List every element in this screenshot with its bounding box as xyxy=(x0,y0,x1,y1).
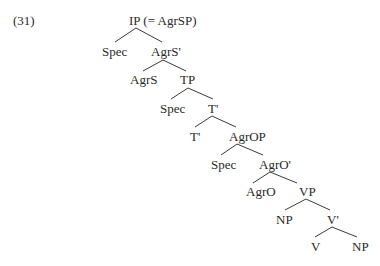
tree-node-agrop: AgrOP xyxy=(229,130,266,144)
tree-edge-agrs-bar-to-agrs xyxy=(143,60,163,71)
tree-node-np2: NP xyxy=(352,240,369,254)
tree-node-spec2: Spec xyxy=(160,102,185,116)
tree-edge-vp-to-v-bar xyxy=(306,199,330,210)
tree-edge-v-bar-to-np2 xyxy=(332,227,357,237)
tree-edge-vp-to-np1 xyxy=(285,199,306,210)
tree-edge-ip-to-agrs-bar xyxy=(136,28,162,42)
tree-node-t: T' xyxy=(190,130,200,144)
tree-edge-v-bar-to-v xyxy=(315,227,332,237)
tree-edge-ip-to-spec1 xyxy=(115,28,136,42)
tree-edge-agrop-to-agro-bar xyxy=(237,144,263,155)
tree-node-agrs-bar: AgrS' xyxy=(151,45,181,59)
tree-node-agro-bar: AgrO' xyxy=(259,158,291,172)
tree-node-spec1: Spec xyxy=(102,45,127,59)
tree-edge-agrop-to-spec3 xyxy=(221,144,237,155)
tree-node-tp: TP xyxy=(180,73,195,87)
tree-edge-agro-bar-to-agro xyxy=(253,172,270,183)
tree-edge-tp-to-t-bar xyxy=(188,88,213,99)
tree-edge-agro-bar-to-vp xyxy=(270,172,297,183)
tree-node-agro: AgrO xyxy=(246,185,276,199)
tree-edge-t-bar-to-t xyxy=(195,116,212,127)
tree-node-t-bar: T' xyxy=(208,102,218,116)
tree-node-v-bar: V' xyxy=(327,213,339,227)
tree-edge-t-bar-to-agrop xyxy=(212,116,236,127)
tree-edge-agrs-bar-to-tp xyxy=(163,60,186,71)
tree-node-agrs: AgrS xyxy=(130,73,157,87)
tree-node-np1: NP xyxy=(276,213,293,227)
tree-node-v: V xyxy=(311,240,320,254)
tree-edge-tp-to-spec2 xyxy=(171,88,188,99)
tree-node-ip: IP (= AgrSP) xyxy=(129,14,197,28)
tree-node-spec3: Spec xyxy=(211,158,236,172)
tree-node-vp: VP xyxy=(299,185,316,199)
